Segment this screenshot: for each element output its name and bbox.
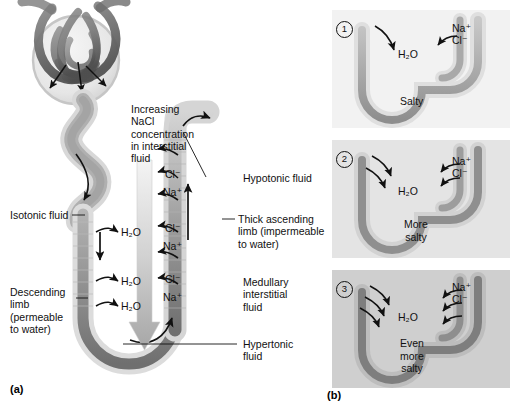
label-isotonic-fluid: Isotonic fluid [10, 209, 68, 221]
step-2-cl-label: Cl⁻ [452, 167, 467, 179]
label-hypertonic-fluid: Hypertonic fluid [243, 338, 293, 363]
panel-b-letter: (b) [327, 389, 341, 401]
nacl-gradient-arrow [129, 160, 160, 350]
step-1-salt-label: Salty [400, 95, 423, 108]
label-thick-ascending-limb: Thick ascending limb (impermeable to wat… [238, 213, 324, 250]
step-1-water-label: H₂O [398, 48, 418, 60]
water-label-2: H₂O [121, 275, 141, 287]
step-1-na-label: Na⁺ [452, 22, 471, 34]
step-3-number: 3 [336, 281, 353, 298]
step-2-water-label: H₂O [398, 185, 418, 197]
ion-label-na-1: Na⁺ [163, 186, 182, 198]
renal-corpuscle [22, 1, 126, 104]
ion-label-na-2: Na⁺ [163, 240, 182, 252]
convoluted-tubule [71, 100, 100, 222]
step-3-cl-label: Cl⁻ [452, 293, 467, 305]
water-label-1: H₂O [121, 226, 141, 238]
ion-label-cl-2: Cl⁻ [165, 222, 180, 234]
nephron-countercurrent-figure: Increasing NaCl concentration in interst… [0, 0, 521, 411]
step-3-water-label: H₂O [398, 311, 418, 323]
step-1-cl-label: Cl⁻ [452, 34, 467, 46]
label-medullary-interstitial-fluid: Medullary interstitial fluid [243, 276, 289, 313]
step-2-salt-label: More salty [404, 218, 428, 243]
ion-label-cl-3: Cl⁻ [165, 273, 180, 285]
ion-label-cl-1: Cl⁻ [165, 168, 180, 180]
label-increasing-nacl: Increasing NaCl concentration in interst… [131, 103, 194, 164]
label-descending-limb: Descending limb (permeable to water) [10, 286, 65, 335]
panel-a-letter: (a) [10, 383, 23, 395]
water-label-3: H₂O [121, 300, 141, 312]
step-1-number: 1 [336, 21, 353, 38]
step-2-na-label: Na⁺ [452, 155, 471, 167]
step-3-na-label: Na⁺ [452, 281, 471, 293]
label-hypotonic-fluid: Hypotonic fluid [243, 172, 312, 184]
step-2-number: 2 [336, 151, 353, 168]
step-3-salt-label: Even more salty [400, 337, 424, 375]
ion-label-na-3: Na⁺ [163, 291, 182, 303]
